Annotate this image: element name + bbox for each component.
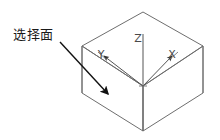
x-axis-label: X xyxy=(168,48,176,61)
axis-tick-marks xyxy=(98,52,178,86)
y-axis-label: Y xyxy=(97,48,105,61)
z-axis-label: Z xyxy=(134,32,142,45)
annotation-label: 选择面 xyxy=(13,27,54,43)
isometric-box-diagram: Z Y X xyxy=(0,0,220,140)
box-left-front-face xyxy=(82,46,143,131)
y-axis-line xyxy=(104,56,143,86)
figure-canvas: Z Y X 选择面 xyxy=(0,0,220,140)
